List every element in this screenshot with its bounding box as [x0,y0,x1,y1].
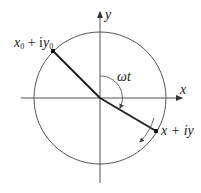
current-radius [100,98,156,131]
y-axis-label: y [105,8,111,22]
end-point-marker [154,129,158,133]
end-point-label: x + iy [161,124,194,138]
diagram-canvas [0,0,201,193]
x-axis-label: x [180,83,186,97]
start-point-label: x0 + iy0 [14,36,53,50]
angle-label: ωt [117,70,131,84]
initial-radius [53,51,100,98]
